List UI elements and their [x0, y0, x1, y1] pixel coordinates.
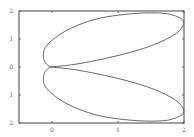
plot-area: 012 21012 — [9, 7, 186, 133]
y-tick-label: 2 — [9, 7, 13, 14]
y-tick-label: 0 — [9, 63, 13, 70]
curves — [43, 13, 183, 121]
y-axis-ticks: 21012 — [9, 7, 184, 126]
x-tick-label: 2 — [182, 126, 186, 133]
upper-lobe-curve — [43, 13, 183, 67]
lower-lobe-curve — [43, 67, 183, 121]
y-tick-label: 1 — [9, 91, 13, 98]
chart: 012 21012 — [0, 0, 194, 137]
x-axis-ticks: 012 — [50, 11, 186, 133]
x-tick-label: 0 — [50, 126, 54, 133]
y-tick-label: 1 — [9, 35, 13, 42]
y-tick-label: 2 — [9, 119, 13, 126]
x-tick-label: 1 — [116, 126, 120, 133]
plot-frame — [19, 11, 184, 123]
